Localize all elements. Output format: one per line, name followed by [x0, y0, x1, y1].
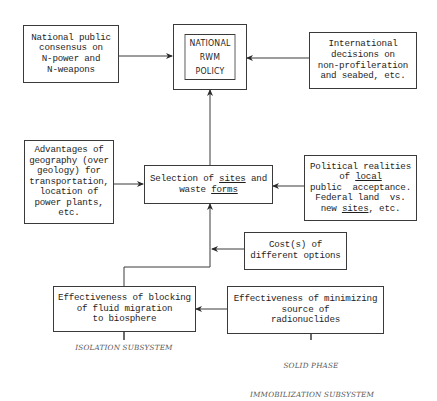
- policy-title-line: RWM: [200, 50, 220, 64]
- box-text-line: Advantages of: [34, 145, 103, 156]
- box-advantages-of-geography: Advantages of geography (over geology) f…: [24, 140, 114, 224]
- policy-title-line: POLICY: [195, 64, 224, 78]
- box-text-line: to biosphere: [93, 314, 157, 325]
- box-text-line: radionuclides: [271, 315, 340, 326]
- box-effectiveness-of-minimizing: Effectiveness of minimizing source of ra…: [227, 286, 384, 334]
- box-international-decisions: International decisions on non-profilera…: [309, 32, 417, 89]
- box-text-line: Selection of sites and: [150, 174, 267, 185]
- policy-title-line: NATIONAL: [189, 36, 230, 50]
- box-text-line: decisions on: [331, 50, 395, 61]
- box-text-line: N-power and: [42, 54, 100, 65]
- box-political-realities: Political realities of local public acce…: [304, 155, 417, 221]
- caption-isolation-subsystem: ISOLATION SUBSYSTEM: [74, 343, 174, 353]
- box-text-line: N-weapons: [47, 65, 95, 76]
- national-rwm-policy-title: NATIONAL RWM POLICY: [185, 34, 236, 80]
- box-text-line: new sites, etc.: [321, 204, 401, 215]
- box-text-line: and seabed, etc.: [320, 71, 405, 82]
- box-selection-of-sites: Selection of sites and waste forms: [144, 165, 273, 204]
- box-text-line: waste forms: [179, 185, 237, 196]
- caption-line: SOLID PHASE: [250, 361, 372, 371]
- box-national-public-consensus: National public consensus on N-power and…: [23, 25, 119, 83]
- box-text-line: etc.: [58, 208, 79, 219]
- box-effectiveness-of-blocking: Effectiveness of blocking of fluid migra…: [53, 286, 196, 332]
- box-costs-of-options: Cost(s) of different options: [244, 232, 347, 270]
- box-text-line: different options: [250, 251, 340, 262]
- caption-line: IMMOBILIZATION SUBSYSTEM: [250, 390, 372, 400]
- caption-solid-phase-subsystem: SOLID PHASE IMMOBILIZATION SUBSYSTEM: [250, 342, 372, 401]
